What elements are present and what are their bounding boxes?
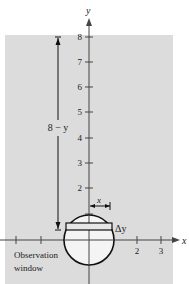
- y-axis-arrow-icon: [86, 18, 92, 26]
- svg-text:7: 7: [78, 57, 83, 67]
- svg-text:2: 2: [78, 183, 83, 193]
- window-label-line2: window: [14, 263, 44, 273]
- x-axis-arrow-icon: [172, 237, 180, 243]
- svg-text:2: 2: [135, 246, 140, 256]
- svg-text:6: 6: [78, 82, 83, 92]
- horizontal-strip: [66, 223, 112, 230]
- x-axis-label: x: [181, 235, 187, 246]
- window-label-line1: Observation: [14, 250, 58, 260]
- svg-text:3: 3: [78, 158, 83, 168]
- svg-text:3: 3: [159, 246, 164, 256]
- width-label: x: [96, 195, 101, 205]
- svg-text:5: 5: [78, 107, 83, 117]
- strip-label: Δy: [115, 223, 126, 234]
- svg-text:4: 4: [78, 133, 83, 143]
- depth-label: 8 − y: [48, 122, 69, 133]
- observation-window-diagram: y x 8 7 6 5 4 3 2 2 3 8 − y x Δy Observa…: [0, 0, 189, 284]
- svg-text:8: 8: [78, 32, 83, 42]
- y-axis-label: y: [85, 5, 91, 16]
